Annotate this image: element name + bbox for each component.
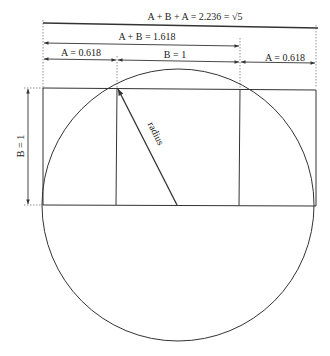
- golden-ratio-diagram: A + B + A = 2.236 = √5 A + B = 1.618 A =…: [0, 0, 330, 356]
- radius-label: radius: [146, 120, 167, 147]
- ab-dimension-label: A + B = 1.618: [118, 31, 175, 42]
- left-division-line: [116, 88, 117, 205]
- a-left-dimension-label: A = 0.618: [61, 47, 101, 58]
- ab-dimension-line: [44, 43, 239, 46]
- total-width-line: [43, 23, 318, 28]
- b-vertical-label: B = 1: [15, 135, 26, 157]
- a-left-dimension-line: [44, 59, 116, 60]
- b-dimension-line: [118, 60, 239, 62]
- b-dimension-label: B = 1: [164, 49, 186, 60]
- right-division-line: [239, 89, 240, 206]
- diagram-svg: A + B + A = 2.236 = √5 A + B = 1.618 A =…: [0, 0, 330, 356]
- a-right-dimension-label: A = 0.618: [265, 52, 305, 63]
- total-width-label: A + B + A = 2.236 = √5: [147, 11, 242, 22]
- golden-rectangle: [43, 88, 316, 206]
- radius-line: [118, 89, 177, 205]
